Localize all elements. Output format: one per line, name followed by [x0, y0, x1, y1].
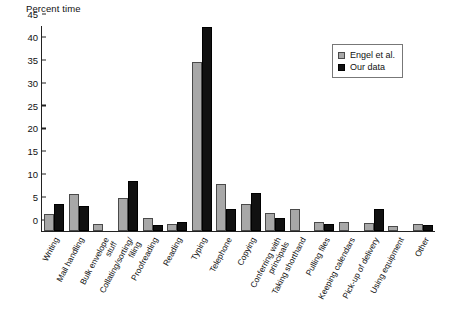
- bar-our-data: [251, 193, 261, 231]
- bar-engel: [241, 204, 251, 231]
- bar-group: [140, 26, 165, 231]
- bar-engel: [364, 223, 374, 231]
- bar-engel: [265, 213, 275, 231]
- y-axis-tick-label: 20: [27, 123, 42, 134]
- bar-our-data: [153, 225, 163, 231]
- y-axis-tick-label: 40: [27, 31, 42, 42]
- bar-our-data: [177, 222, 187, 231]
- x-axis-label: Typing: [189, 234, 214, 329]
- x-axis-label: Proofreading: [140, 234, 165, 329]
- bar-group: [410, 26, 435, 231]
- bar-engel: [93, 224, 103, 231]
- bar-our-data: [226, 209, 236, 231]
- chart-legend: Engel et al. Our data: [332, 44, 403, 78]
- bar-group: [116, 26, 141, 231]
- bar-our-data: [79, 206, 89, 231]
- bar-our-data: [202, 27, 212, 231]
- bar-our-data: [275, 218, 285, 231]
- bar-engel: [216, 184, 226, 231]
- bar-engel: [314, 222, 324, 231]
- y-axis-tick-label: 35: [27, 54, 42, 65]
- x-axis-label: Using equipment: [386, 234, 411, 329]
- bar-our-data: [324, 224, 334, 231]
- bar-our-data: [423, 225, 433, 231]
- legend-swatch-engel-icon: [338, 52, 345, 59]
- bar-our-data: [374, 209, 384, 231]
- bar-engel: [290, 209, 300, 231]
- bar-group: [214, 26, 239, 231]
- bar-group: [91, 26, 116, 231]
- legend-item-our-data: Our data: [338, 61, 395, 73]
- bar-group: [239, 26, 264, 231]
- x-axis-label: Taking shorthand: [287, 234, 312, 329]
- legend-label-our-data: Our data: [350, 62, 385, 72]
- bar-engel: [413, 224, 423, 231]
- x-axis-label: Reading: [164, 234, 189, 329]
- bar-engel: [192, 62, 202, 231]
- legend-swatch-our-data-icon: [338, 64, 345, 71]
- y-axis-tick-label: 10: [27, 169, 42, 180]
- bar-engel: [118, 198, 128, 231]
- bar-group: [67, 26, 92, 231]
- bar-our-data: [54, 204, 64, 231]
- x-axis-labels: WritingMail handlingBulk envelope stuffC…: [41, 234, 435, 329]
- bar-engel: [44, 214, 54, 231]
- bar-engel: [167, 224, 177, 231]
- y-axis-tick-label: 25: [27, 100, 42, 111]
- bar-chart-figure: Percent time 051015202530354045 WritingM…: [0, 0, 451, 329]
- x-axis-label: Telephone: [213, 234, 238, 329]
- legend-item-engel: Engel et al.: [338, 49, 395, 61]
- y-axis-tick-label: 0: [33, 215, 42, 226]
- y-axis-tick-label: 45: [27, 9, 42, 20]
- bar-engel: [339, 222, 349, 231]
- x-axis-label: Other: [410, 234, 435, 329]
- bar-group: [288, 26, 313, 231]
- bar-group: [42, 26, 67, 231]
- bar-group: [263, 26, 288, 231]
- bar-engel: [143, 218, 153, 231]
- bar-group: [189, 26, 214, 231]
- bar-group: [165, 26, 190, 231]
- bar-engel: [69, 194, 79, 231]
- y-axis-tick-label: 30: [27, 77, 42, 88]
- legend-label-engel: Engel et al.: [350, 50, 395, 60]
- bar-engel: [388, 226, 398, 231]
- y-axis-tick-label: 5: [33, 192, 42, 203]
- bar-our-data: [128, 181, 138, 231]
- y-axis-tick-label: 15: [27, 146, 42, 157]
